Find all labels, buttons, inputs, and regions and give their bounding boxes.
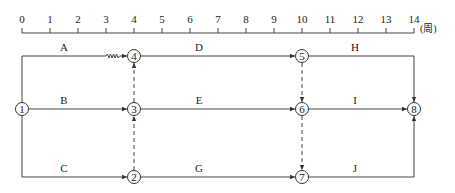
node-6: 6 (296, 103, 309, 116)
activity-label-g: G (195, 162, 203, 174)
tick-label: 3 (103, 13, 109, 25)
svg-text:5: 5 (299, 50, 305, 62)
activity-arrows (22, 54, 414, 177)
activity-label-c: C (60, 162, 67, 174)
node-2: 2 (128, 171, 141, 184)
node-7: 7 (296, 171, 309, 184)
activity-label-h: H (351, 41, 359, 53)
tick-label: 7 (215, 13, 221, 25)
activity-label-e: E (196, 94, 203, 106)
svg-text:3: 3 (131, 103, 137, 115)
time-axis: 0 1 2 3 4 5 6 7 8 9 10 11 12 13 14 (周) (19, 13, 436, 35)
tick-label: 8 (243, 13, 249, 25)
tick-label: 11 (325, 13, 336, 25)
activity-label-b: B (60, 94, 67, 106)
tick-label: 4 (131, 13, 137, 25)
svg-text:4: 4 (131, 50, 137, 62)
svg-text:8: 8 (411, 103, 417, 115)
activity-j-arrow (309, 116, 414, 177)
tick-label: 2 (75, 13, 81, 25)
activity-labels: A B C D E G H I J (60, 41, 359, 174)
node-4: 4 (128, 50, 141, 63)
node-3: 3 (128, 103, 141, 116)
activity-label-a: A (60, 41, 68, 53)
svg-text:7: 7 (299, 171, 305, 183)
tick-label: 12 (353, 13, 364, 25)
tick-label: 5 (159, 13, 165, 25)
tick-label: 6 (187, 13, 193, 25)
tick-label: 13 (381, 13, 393, 25)
activity-h-arrow (309, 56, 414, 102)
tick-label: 0 (19, 13, 25, 25)
activity-label-j: J (353, 162, 358, 174)
wavy-free-float (106, 54, 127, 58)
node-5: 5 (296, 50, 309, 63)
activity-label-i: I (353, 94, 357, 106)
node-8: 8 (408, 103, 421, 116)
svg-text:2: 2 (131, 171, 137, 183)
tick-label: 9 (271, 13, 277, 25)
activity-c-arrow (22, 115, 127, 177)
nodes: 1 2 3 4 5 6 7 8 (16, 50, 421, 184)
tick-label: 1 (47, 13, 53, 25)
axis-unit-label: (周) (420, 23, 437, 35)
tick-label: 14 (409, 13, 421, 25)
tick-label: 10 (297, 13, 309, 25)
dummy-arrows (134, 63, 302, 170)
activity-label-d: D (195, 41, 203, 53)
svg-text:6: 6 (299, 103, 305, 115)
axis-ticks (22, 28, 414, 33)
svg-text:1: 1 (19, 103, 25, 115)
node-1: 1 (16, 103, 29, 116)
time-scaled-network-diagram: 0 1 2 3 4 5 6 7 8 9 10 11 12 13 14 (周) (0, 0, 455, 193)
